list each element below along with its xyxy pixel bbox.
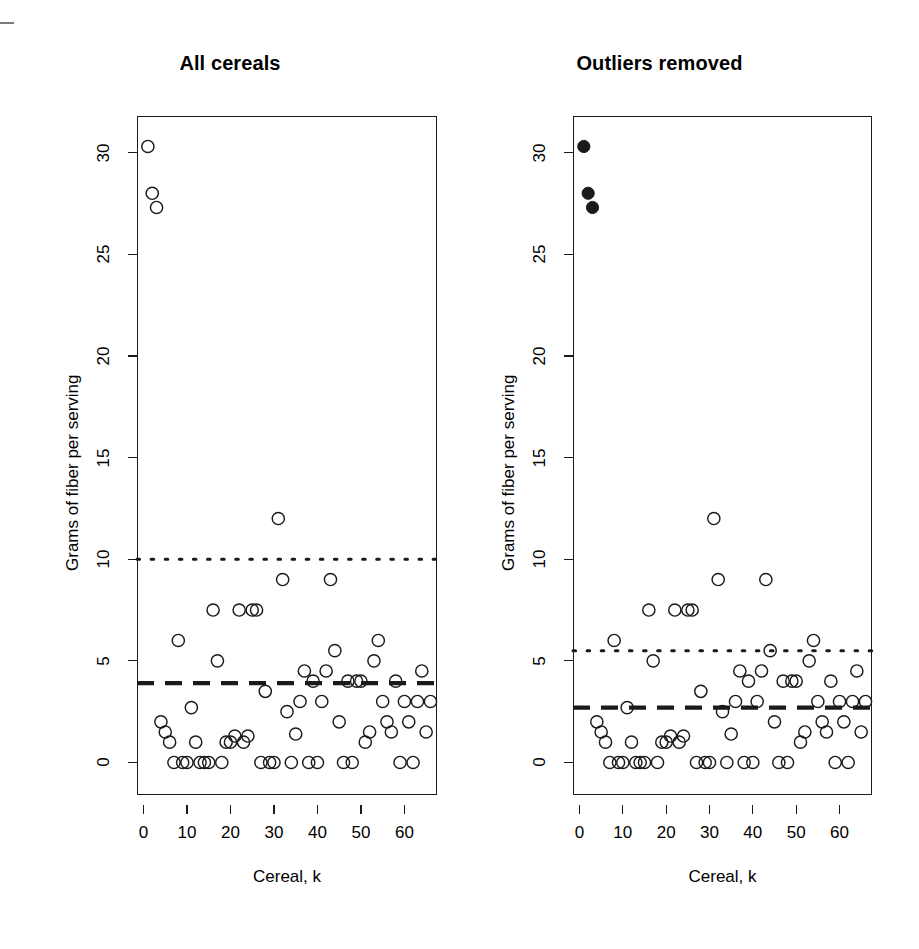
data-point [272,512,284,524]
data-point [760,573,772,585]
data-point [803,655,815,667]
panel-outliers-removed: Outliers removed 05101520253001020304050… [436,0,919,949]
data-point [333,716,345,728]
data-point [190,736,202,748]
data-point [207,604,219,616]
data-point [150,201,162,213]
y-axis-title-left: Grams of fiber per serving [63,374,83,571]
data-point [377,695,389,707]
panel-all-cereals: All cereals 0510152025300102030405060 Gr… [0,0,460,949]
data-point [855,726,867,738]
data-point [211,655,223,667]
data-point [364,726,376,738]
data-point [416,665,428,677]
data-point [403,716,415,728]
data-point [599,736,611,748]
outlier-point [586,201,598,213]
data-point [625,736,637,748]
data-point [647,655,659,667]
data-point [372,634,384,646]
data-point [394,756,406,768]
data-point [311,756,323,768]
data-point [407,756,419,768]
x-axis-title-left: Cereal, k [137,867,437,887]
data-point [669,604,681,616]
data-point [411,695,423,707]
data-point [643,604,655,616]
data-point [825,675,837,687]
data-point [420,726,432,738]
data-point [820,726,832,738]
data-point [846,695,858,707]
data-point [277,573,289,585]
outlier-point [582,187,594,199]
data-point [398,695,410,707]
data-point [742,675,754,687]
data-point [781,756,793,768]
outlier-point [578,140,590,152]
data-point [216,756,228,768]
data-point [324,573,336,585]
data-point [285,756,297,768]
data-point [424,695,436,707]
data-point [842,756,854,768]
data-point [747,756,759,768]
data-point [729,695,741,707]
data-point [851,665,863,677]
data-point [695,685,707,697]
data-point [320,665,332,677]
data-point [185,701,197,713]
data-point [725,728,737,740]
data-point [259,685,271,697]
data-point [807,634,819,646]
y-axis-title-right: Grams of fiber per serving [499,374,519,571]
data-point [368,655,380,667]
data-point [829,756,841,768]
data-point [755,665,767,677]
data-point [146,187,158,199]
data-point [708,512,720,524]
data-point [142,140,154,152]
data-point [298,665,310,677]
data-point [812,695,824,707]
data-point [164,736,176,748]
data-point [721,756,733,768]
data-point [734,665,746,677]
data-point [346,756,358,768]
data-point [329,645,341,657]
data-point [385,726,397,738]
data-point [768,716,780,728]
data-point [608,634,620,646]
data-point [294,695,306,707]
data-point [712,573,724,585]
data-point [838,716,850,728]
data-point [172,634,184,646]
data-point [233,604,245,616]
data-point [281,706,293,718]
data-point [290,728,302,740]
data-point [799,726,811,738]
data-point [316,695,328,707]
data-point [651,756,663,768]
x-axis-title-right: Cereal, k [573,867,872,887]
figure-canvas: All cereals 0510152025300102030405060 Gr… [0,0,919,949]
